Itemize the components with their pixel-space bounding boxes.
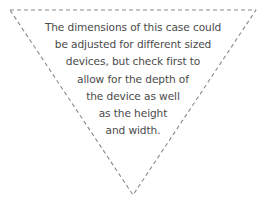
note-line-2: be adjusted for different sized	[36, 36, 230, 53]
note-line-5: the device as well	[36, 88, 230, 105]
note-line-7: and width.	[36, 122, 230, 139]
note-line-4: allow for the depth of	[36, 71, 230, 88]
note-line-1: The dimensions of this case could	[36, 19, 230, 36]
note-line-6: as the height	[36, 105, 230, 122]
note-line-3: devices, but check first to	[36, 53, 230, 70]
note-text-block: The dimensions of this case could be adj…	[36, 19, 230, 139]
